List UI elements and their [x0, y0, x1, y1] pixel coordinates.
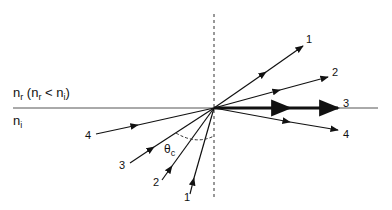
outgoing-label-3: 3: [343, 97, 349, 109]
upper-medium-label: nr (nr < ni): [13, 85, 70, 102]
incident-label-2: 2: [153, 176, 159, 188]
outgoing-label-2: 2: [332, 66, 338, 78]
outgoing-label-4: 4: [343, 128, 349, 140]
critical-angle-label: θc: [164, 142, 176, 158]
incident-label-4: 4: [85, 129, 91, 141]
outgoing-ray-2: [214, 77, 328, 108]
outgoing-ray-1: [214, 46, 303, 108]
incident-label-1: 1: [184, 191, 190, 203]
refraction-diagram: nr (nr < ni) ni 4 3 2 1 θc: [0, 0, 392, 210]
outgoing-label-1: 1: [306, 33, 312, 45]
incident-label-3: 3: [119, 159, 125, 171]
incident-ray-4: [96, 108, 214, 134]
lower-medium-label: ni: [13, 113, 22, 130]
outgoing-ray-4: [214, 108, 338, 130]
